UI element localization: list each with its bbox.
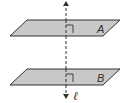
plane-a-label: A (96, 23, 104, 35)
plane-a: A (10, 20, 120, 36)
arrow-up-icon (63, 1, 69, 6)
plane-b: B (10, 69, 120, 85)
parallel-planes-diagram: A B ℓ (0, 0, 128, 103)
line-label: ℓ (73, 89, 78, 103)
line-l (63, 1, 69, 20)
plane-b-label: B (97, 72, 104, 84)
arrow-down-icon (63, 94, 69, 99)
line-l-bottom (63, 85, 69, 99)
